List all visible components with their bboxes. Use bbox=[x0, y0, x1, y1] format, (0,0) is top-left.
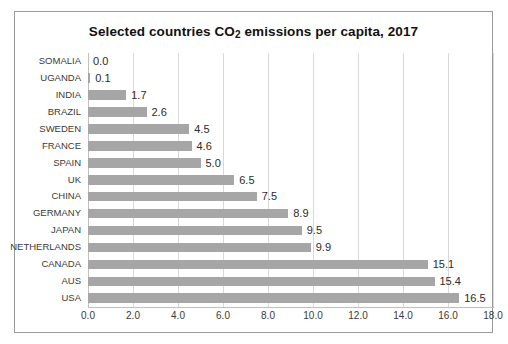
bar[interactable] bbox=[88, 158, 201, 168]
bar-rows: SOMALIA0.0UGANDA0.1INDIA1.7BRAZIL2.6SWED… bbox=[88, 53, 493, 307]
bar-row[interactable]: SPAIN5.0 bbox=[88, 155, 493, 172]
bar-value-label: 7.5 bbox=[262, 188, 277, 205]
bar-row[interactable]: BRAZIL2.6 bbox=[88, 104, 493, 121]
category-label: SWEDEN bbox=[39, 121, 81, 138]
category-label: FRANCE bbox=[42, 138, 81, 155]
bar-value-label: 8.9 bbox=[293, 205, 308, 222]
x-tick-label: 10.0 bbox=[303, 310, 322, 321]
bar[interactable] bbox=[88, 277, 435, 287]
chart-container: Selected countries CO2 emissions per cap… bbox=[14, 11, 493, 333]
category-label: GERMANY bbox=[33, 205, 81, 222]
bar-row[interactable]: USA16.5 bbox=[88, 290, 493, 307]
bar[interactable] bbox=[88, 124, 189, 134]
x-tick-label: 2.0 bbox=[126, 310, 140, 321]
bar-value-label: 15.4 bbox=[440, 273, 461, 290]
bar[interactable] bbox=[88, 175, 234, 185]
plot-area: SOMALIA0.0UGANDA0.1INDIA1.7BRAZIL2.6SWED… bbox=[88, 53, 493, 307]
category-label: CANADA bbox=[41, 256, 81, 273]
bar[interactable] bbox=[88, 226, 302, 236]
category-label: JAPAN bbox=[51, 222, 81, 239]
bar-row[interactable]: CHINA7.5 bbox=[88, 188, 493, 205]
chart-title: Selected countries CO2 emissions per cap… bbox=[15, 24, 492, 40]
category-label: SOMALIA bbox=[39, 53, 81, 70]
chart-title-main: Selected countries CO bbox=[89, 24, 235, 39]
bar[interactable] bbox=[88, 90, 126, 100]
bar[interactable] bbox=[88, 209, 288, 219]
bar-value-label: 4.6 bbox=[197, 138, 212, 155]
bar[interactable] bbox=[88, 73, 90, 83]
bar-row[interactable]: SWEDEN4.5 bbox=[88, 121, 493, 138]
chart-title-tail: emissions per capita, 2017 bbox=[241, 24, 419, 39]
bar-row[interactable]: AUS15.4 bbox=[88, 273, 493, 290]
bar-row[interactable]: GERMANY8.9 bbox=[88, 205, 493, 222]
x-tick-label: 12.0 bbox=[348, 310, 367, 321]
x-tick-label: 0.0 bbox=[81, 310, 95, 321]
bar-row[interactable]: CANADA15.1 bbox=[88, 256, 493, 273]
bar[interactable] bbox=[88, 141, 192, 151]
category-label: SPAIN bbox=[53, 155, 81, 172]
x-tick-label: 8.0 bbox=[261, 310, 275, 321]
x-tick-label: 14.0 bbox=[393, 310, 412, 321]
category-label: CHINA bbox=[51, 188, 81, 205]
bar-value-label: 15.1 bbox=[433, 256, 454, 273]
bar-value-label: 9.9 bbox=[316, 239, 331, 256]
bar-value-label: 4.5 bbox=[194, 121, 209, 138]
category-label: USA bbox=[61, 290, 81, 307]
bar-value-label: 5.0 bbox=[206, 155, 221, 172]
category-label: UGANDA bbox=[40, 70, 81, 87]
bar-row[interactable]: NETHERLANDS9.9 bbox=[88, 239, 493, 256]
bar-value-label: 2.6 bbox=[152, 104, 167, 121]
bar[interactable] bbox=[88, 293, 459, 303]
x-axis-line bbox=[88, 307, 494, 308]
bar-row[interactable]: FRANCE4.6 bbox=[88, 138, 493, 155]
bar-row[interactable]: INDIA1.7 bbox=[88, 87, 493, 104]
bar-row[interactable]: SOMALIA0.0 bbox=[88, 53, 493, 70]
category-label: NETHERLANDS bbox=[10, 239, 81, 256]
category-label: AUS bbox=[61, 273, 81, 290]
bar-value-label: 0.1 bbox=[95, 70, 110, 87]
bar-row[interactable]: UGANDA0.1 bbox=[88, 70, 493, 87]
x-tick-label: 4.0 bbox=[171, 310, 185, 321]
category-label: UK bbox=[68, 172, 81, 189]
bar[interactable] bbox=[88, 192, 257, 202]
x-axis-tick-labels: 0.02.04.06.08.010.012.014.016.018.0 bbox=[88, 310, 493, 328]
category-label: BRAZIL bbox=[48, 104, 81, 121]
category-label: INDIA bbox=[56, 87, 81, 104]
bar[interactable] bbox=[88, 107, 147, 117]
x-tick-label: 6.0 bbox=[216, 310, 230, 321]
bar[interactable] bbox=[88, 243, 311, 253]
bar-value-label: 16.5 bbox=[464, 290, 485, 307]
bar-value-label: 0.0 bbox=[93, 53, 108, 70]
bar[interactable] bbox=[88, 260, 428, 270]
bar-value-label: 9.5 bbox=[307, 222, 322, 239]
bar-row[interactable]: JAPAN9.5 bbox=[88, 222, 493, 239]
x-tick-label: 18.0 bbox=[483, 310, 502, 321]
gridline bbox=[493, 53, 494, 307]
bar-value-label: 1.7 bbox=[131, 87, 146, 104]
bar-row[interactable]: UK6.5 bbox=[88, 172, 493, 189]
bar-value-label: 6.5 bbox=[239, 172, 254, 189]
x-tick-label: 16.0 bbox=[438, 310, 457, 321]
